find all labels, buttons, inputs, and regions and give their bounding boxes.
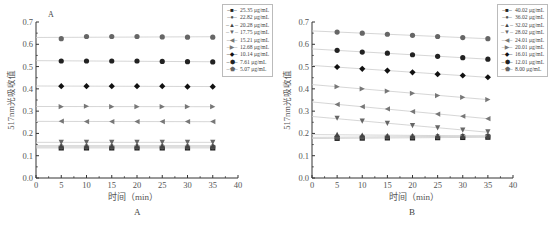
legend-item: –▶–12.68 μg/mL [226,44,269,51]
data-point-hexagon-icon [485,57,490,62]
y-tick-label: 0.4 [298,84,309,94]
legend-diamond-icon: –◆– [501,51,513,58]
data-point-triangle-right-icon [210,104,215,109]
y-tick-label: 0.6 [22,39,33,49]
data-point-triangle-right-icon [109,104,114,109]
legend-item: –■–40.02 μg/mL [501,7,544,14]
legend-label: 8.00 μg/mL [515,66,541,73]
y-tick-label: 0.0 [298,173,309,183]
data-point-triangle-right-icon [335,84,340,89]
data-point-hexagon-icon [460,55,465,60]
y-tick-label: 0.4 [22,84,33,94]
data-point-triangle-up-icon [335,132,340,137]
chart-a-caption: A [134,207,141,217]
data-point-diamond-icon [159,83,165,89]
data-point-hexagon-icon [109,58,114,63]
data-point-diamond-icon [109,83,115,89]
data-point-triangle-right-icon [134,104,139,109]
y-tick-label: 0.7 [298,17,309,27]
data-point-triangle-left-icon [84,119,89,124]
chart-a-inset-label: A [48,10,54,19]
legend-label: 15.21 μg/mL [240,37,269,44]
data-point-pentagon-icon [360,31,365,36]
legend-label: 32.02 μg/mL [515,22,544,29]
legend-item: –▲–20.28 μg/mL [226,22,269,29]
y-tick-label: 0.6 [298,39,309,49]
legend-item: –⬟–8.00 μg/mL [501,66,544,73]
legend-item: –●–36.02 μg/mL [501,14,544,21]
legend-circle-icon: –●– [501,14,513,21]
data-point-diamond-icon [134,83,140,89]
x-tick-label: 0 [34,180,38,190]
legend-label: 40.02 μg/mL [515,7,544,14]
legend-triangle-down-icon: –▼– [501,29,513,36]
data-point-pentagon-icon [109,34,114,39]
data-point-hexagon-icon [385,51,390,56]
x-tick-label: 30 [183,180,192,190]
data-point-hexagon-icon [435,54,440,59]
legend-item: –●–22.82 μg/mL [226,14,269,21]
legend-square-icon: –■– [226,7,238,14]
data-point-triangle-right-icon [84,104,89,109]
data-point-triangle-right-icon [485,97,490,102]
y-tick-label: 0.1 [22,151,33,161]
y-tick-label: 0.7 [22,17,33,27]
legend-item: –◀–15.21 μg/mL [226,37,269,44]
legend-diamond-icon: –◆– [226,51,238,58]
legend-label: 12.01 μg/mL [515,59,544,66]
legend-triangle-right-icon: –▶– [226,44,238,51]
data-point-pentagon-icon [185,35,190,40]
data-point-pentagon-icon [160,34,165,39]
y-tick-label: 0.3 [22,106,33,116]
data-point-triangle-right-icon [410,91,415,96]
legend-label: 12.68 μg/mL [240,44,269,51]
legend-label: 17.75 μg/mL [240,29,269,36]
x-tick-label: 20 [408,180,417,190]
x-tick-label: 5 [335,180,339,190]
x-tick-label: 15 [108,180,117,190]
legend-triangle-left-icon: –◀– [501,37,513,44]
y-tick-label: 0.5 [298,62,309,72]
legend-label: 20.28 μg/mL [240,22,269,29]
data-point-triangle-left-icon [385,106,390,111]
data-point-triangle-left-icon [109,119,114,124]
y-tick-label: 0.2 [298,128,309,138]
legend-item: –⬢–12.01 μg/mL [501,59,544,66]
data-point-triangle-left-icon [360,104,365,109]
legend-item: –▼–28.02 μg/mL [501,29,544,36]
x-tick-label: 40 [234,180,243,190]
data-point-hexagon-icon [335,48,340,53]
data-point-pentagon-icon [460,35,465,40]
legend-triangle-right-icon: –▶– [501,44,513,51]
data-point-pentagon-icon [84,34,89,39]
data-point-diamond-icon [359,66,365,72]
y-tick-label: 0.1 [298,151,309,161]
legend-triangle-up-icon: –▲– [226,22,238,29]
legend-hexagon-icon: –⬢– [501,59,513,66]
data-point-diamond-icon [58,83,64,89]
legend-item: –▶–20.01 μg/mL [501,44,544,51]
x-tick-label: 0 [310,180,314,190]
legend-label: 16.01 μg/mL [515,51,544,58]
data-point-diamond-icon [460,72,466,78]
data-point-hexagon-icon [410,52,415,57]
legend-pentagon-icon: –⬟– [501,66,513,73]
data-point-triangle-right-icon [385,88,390,93]
data-point-hexagon-icon [360,49,365,54]
x-tick-label: 15 [383,180,392,190]
legend-triangle-up-icon: –▲– [501,22,513,29]
legend-label: 24.01 μg/mL [515,37,544,44]
chart-b-legend: –■–40.02 μg/mL–●–36.02 μg/mL–▲–32.02 μg/… [497,4,548,77]
legend-label: 20.01 μg/mL [515,44,544,51]
legend-item: –⬟–5.07 μg/mL [226,66,269,73]
legend-item: –▲–32.02 μg/mL [501,22,544,29]
data-point-diamond-icon [83,83,89,89]
data-point-triangle-right-icon [59,104,64,109]
data-point-triangle-left-icon [335,102,340,107]
x-tick-label: 25 [158,180,167,190]
legend-triangle-left-icon: –◀– [226,37,238,44]
x-tick-label: 30 [459,180,468,190]
y-tick-label: 0.0 [22,173,33,183]
legend-label: 28.02 μg/mL [515,29,544,36]
data-point-diamond-icon [210,84,216,90]
